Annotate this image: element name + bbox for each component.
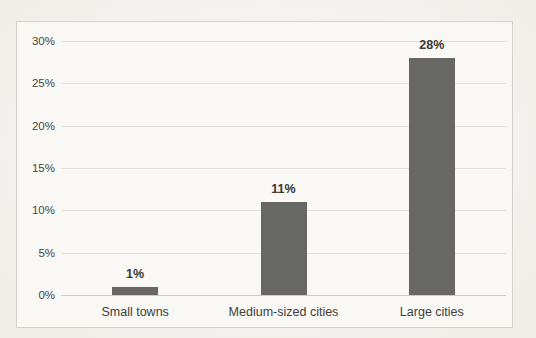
category-label-small-towns: Small towns bbox=[101, 305, 168, 319]
data-label: 28% bbox=[419, 38, 444, 52]
y-tick-label-10%: 10% bbox=[17, 203, 55, 217]
bar-rect bbox=[261, 202, 307, 295]
data-label: 11% bbox=[271, 182, 295, 196]
bar-rect bbox=[112, 287, 158, 295]
data-label: 1% bbox=[126, 267, 144, 281]
bar-large-cities: 28% bbox=[409, 36, 455, 295]
gridline-0% bbox=[61, 295, 506, 296]
bar-small-towns: 1% bbox=[112, 265, 158, 295]
y-tick-label-30%: 30% bbox=[17, 34, 55, 48]
y-tick-label-15%: 15% bbox=[17, 161, 55, 175]
category-label-medium-sized-cities: Medium-sized cities bbox=[229, 305, 339, 319]
y-tick-label-5%: 5% bbox=[17, 246, 55, 260]
category-label-large-cities: Large cities bbox=[400, 305, 464, 319]
bar-medium-sized-cities: 11% bbox=[261, 180, 307, 295]
y-tick-label-25%: 25% bbox=[17, 76, 55, 90]
bar-rect bbox=[409, 58, 455, 295]
bar-chart: 0%5%10%15%20%25%30% 1%11%28% Small towns… bbox=[16, 21, 513, 328]
y-tick-label-0%: 0% bbox=[17, 288, 55, 302]
photo-background: 0%5%10%15%20%25%30% 1%11%28% Small towns… bbox=[0, 0, 536, 338]
y-tick-label-20%: 20% bbox=[17, 119, 55, 133]
